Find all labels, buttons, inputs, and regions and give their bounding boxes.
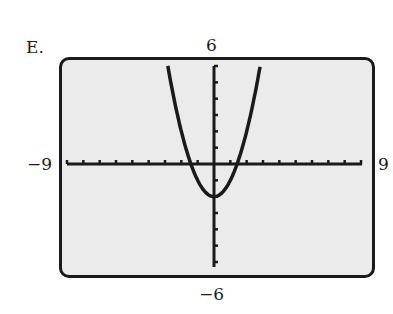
graph-plot	[0, 0, 393, 314]
axes	[67, 66, 362, 267]
